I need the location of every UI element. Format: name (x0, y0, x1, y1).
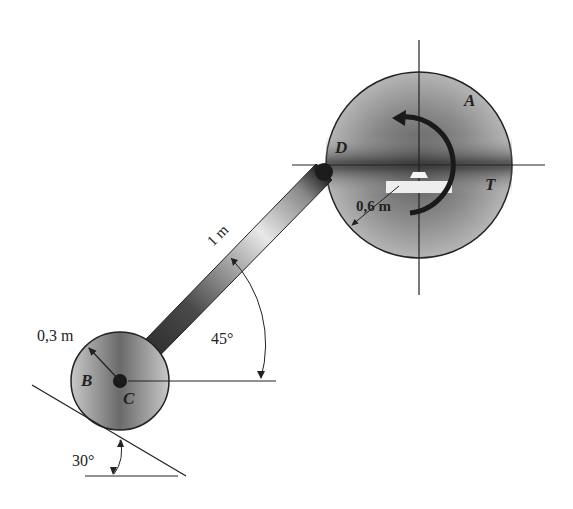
label-d: D (334, 138, 347, 157)
mechanism-diagram: A D T 0,6 m 1 m 45° 0,3 m B C 30° (0, 0, 573, 509)
label-rod-length: 1 m (204, 221, 232, 249)
angle-arrow-icon (257, 371, 265, 379)
pin-support-icon (410, 172, 428, 178)
label-rod-angle: 45° (211, 330, 233, 347)
label-small-radius: 0,3 m (37, 327, 74, 344)
joint-d (315, 163, 333, 181)
disk-b (71, 332, 276, 430)
label-c: C (123, 389, 135, 408)
label-t: T (485, 175, 496, 194)
label-large-radius: 0,6 m (356, 198, 392, 214)
label-incline-angle: 30° (72, 452, 94, 469)
label-b: B (80, 371, 92, 390)
ground-support (386, 181, 452, 193)
angle-arrow-icon (117, 439, 124, 447)
label-a: A (463, 91, 475, 110)
